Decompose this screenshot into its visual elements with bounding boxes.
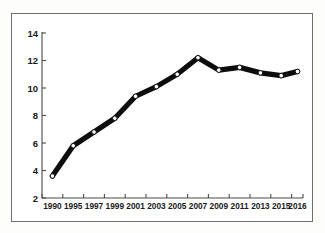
- x-tick-label-2016: 2016: [288, 201, 307, 211]
- x-tick-label-2011: 2011: [231, 201, 249, 211]
- data-point-marker: [71, 143, 76, 148]
- x-tick-label-2005: 2005: [168, 201, 187, 211]
- data-point-marker: [258, 71, 263, 76]
- y-tick-label-4: 4: [33, 165, 39, 176]
- data-point-marker: [133, 94, 138, 99]
- data-point-marker: [113, 116, 118, 121]
- line-chart-plot: 14 12 10 8 6 4 2 1990 1995 1997 1999: [0, 0, 325, 233]
- x-tick-label-2009: 2009: [210, 201, 229, 211]
- data-point-marker: [154, 84, 159, 89]
- x-tick-label-2001: 2001: [126, 201, 145, 211]
- y-tick-label-14: 14: [27, 28, 38, 39]
- x-tick-label-1999: 1999: [106, 201, 125, 211]
- x-tick-label-1995: 1995: [64, 201, 83, 211]
- data-point-marker: [50, 174, 55, 179]
- y-tick-label-2: 2: [33, 193, 38, 204]
- x-tick-label-1997: 1997: [85, 201, 104, 211]
- x-tick-label-1990: 1990: [43, 201, 62, 211]
- data-series-markers: [50, 55, 300, 178]
- data-point-marker: [217, 68, 222, 73]
- data-point-marker: [237, 65, 242, 70]
- data-point-marker: [196, 55, 201, 60]
- y-tick-label-10: 10: [27, 83, 38, 94]
- x-tick-label-2007: 2007: [189, 201, 208, 211]
- x-tick-marks: [42, 194, 303, 198]
- data-point-marker: [92, 130, 97, 135]
- x-tick-label-2013: 2013: [251, 201, 270, 211]
- data-point-marker: [175, 72, 180, 77]
- x-tick-label-2003: 2003: [147, 201, 166, 211]
- y-tick-label-6: 6: [33, 138, 38, 149]
- y-tick-label-12: 12: [27, 55, 38, 66]
- y-tick-label-8: 8: [33, 110, 38, 121]
- data-point-marker: [279, 73, 284, 78]
- data-point-marker: [295, 69, 300, 74]
- chart-figure: 14 12 10 8 6 4 2 1990 1995 1997 1999: [0, 0, 325, 233]
- y-tick-marks: [42, 33, 46, 198]
